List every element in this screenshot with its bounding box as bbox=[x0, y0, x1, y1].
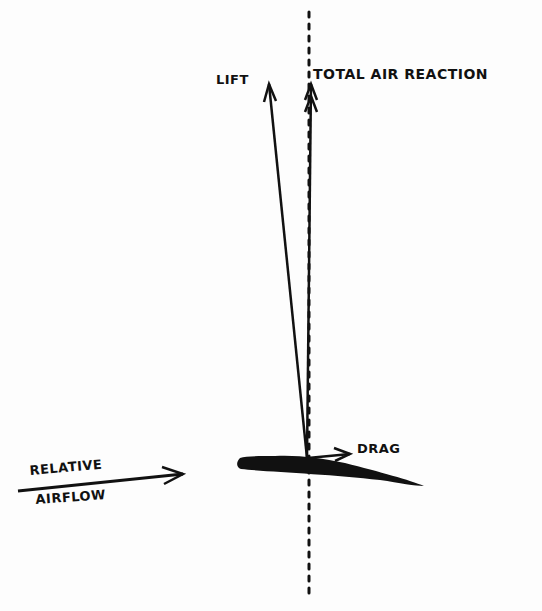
drag-label: DRAG bbox=[357, 441, 401, 456]
lift-label: LIFT bbox=[216, 72, 249, 87]
aerofoil-force-diagram: LIFT TOTAL AIR REACTION DRAG RELATIVE AI… bbox=[0, 0, 542, 611]
lift-arrow bbox=[264, 84, 307, 458]
aerofoil-section bbox=[237, 456, 424, 486]
diagram-graphics bbox=[0, 0, 542, 611]
total-air-reaction-label: TOTAL AIR REACTION bbox=[313, 66, 488, 82]
total-air-reaction-arrow bbox=[305, 84, 317, 458]
